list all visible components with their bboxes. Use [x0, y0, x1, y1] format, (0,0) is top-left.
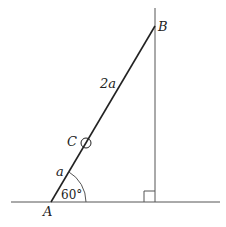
label-a-length: a — [56, 164, 64, 179]
label-c: C — [67, 134, 77, 149]
label-2a-length: 2a — [99, 76, 116, 91]
segment-ab — [51, 26, 155, 202]
label-b: B — [157, 19, 168, 34]
right-angle-marker — [144, 191, 155, 202]
label-a: A — [42, 204, 52, 219]
label-60-degrees: 60° — [61, 188, 82, 202]
geometry-diagram: B A C 2a a 60° — [0, 0, 226, 227]
